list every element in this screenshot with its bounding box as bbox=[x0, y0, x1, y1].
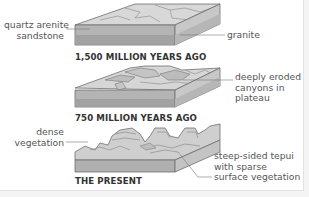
caption-1500-million-years-ago: 1,500 MILLION YEARS AGO bbox=[75, 52, 206, 62]
stage2-block bbox=[75, 66, 220, 107]
stage1-block bbox=[75, 4, 220, 45]
diagram-panel: quartz arenite sandstone granite 1,500 M… bbox=[0, 0, 304, 191]
label-steep-sided-tepui: steep-sided tepui with sparse surface ve… bbox=[214, 151, 300, 183]
stage3-block bbox=[75, 124, 220, 172]
caption-the-present: THE PRESENT bbox=[75, 176, 142, 186]
label-deeply-eroded-canyons: deeply eroded canyons in plateau bbox=[235, 72, 301, 104]
label-quartz-arenite-sandstone: quartz arenite sandstone bbox=[4, 20, 64, 41]
caption-750-million-years-ago: 750 MILLION YEARS AGO bbox=[75, 113, 197, 123]
label-granite: granite bbox=[227, 30, 260, 41]
label-dense-vegetation: dense vegetation bbox=[4, 127, 64, 148]
